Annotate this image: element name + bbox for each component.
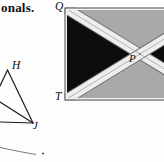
vertex-label-t: T bbox=[55, 91, 61, 103]
bottom-partial-figure bbox=[0, 148, 44, 155]
vertex-label-j: J bbox=[33, 121, 38, 132]
vertex-label-h: H bbox=[12, 60, 20, 72]
intersection-point-p bbox=[139, 53, 141, 55]
flag-figure bbox=[65, 8, 164, 100]
bottom-figure-edge bbox=[0, 148, 36, 155]
triangle-side-h-left bbox=[0, 70, 8, 86]
triangle-segment-to-j-lower bbox=[0, 122, 33, 123]
triangle-figure bbox=[0, 70, 33, 123]
point-label-p: P bbox=[129, 53, 136, 64]
textbook-page-crop: onals. Q T P H J bbox=[0, 0, 164, 162]
figures-canvas bbox=[0, 0, 164, 162]
vertex-label-q: Q bbox=[55, 1, 63, 13]
instruction-text-fragment: onals. bbox=[1, 1, 34, 14]
bottom-figure-vertex-dot bbox=[42, 152, 44, 154]
